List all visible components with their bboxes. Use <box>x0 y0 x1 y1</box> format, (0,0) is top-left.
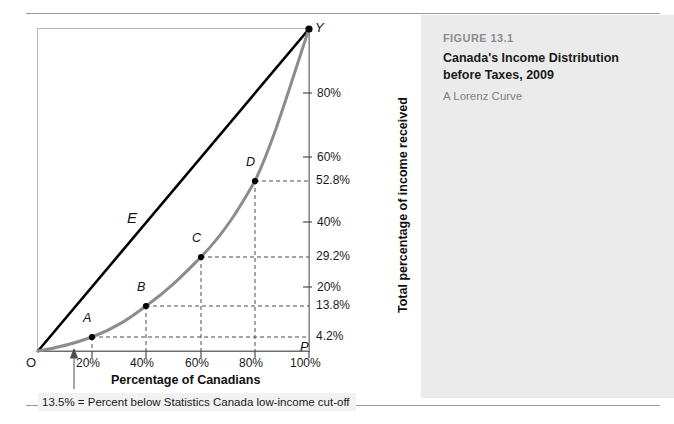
y-axis-title: Total percentage of income received <box>396 97 410 313</box>
y-value-52-8: 52.8% <box>316 173 350 187</box>
chart-vectors <box>0 15 421 405</box>
x-tick-20: 20% <box>76 356 100 370</box>
x-tick-100: 100% <box>290 356 321 370</box>
x-tick-60: 60% <box>185 356 209 370</box>
lorenz-curve-chart: A B C D Y P E O 20% 40% 60% 80% 100% 20%… <box>0 15 421 405</box>
point-label-y: Y <box>315 20 324 35</box>
y-value-13-8: 13.8% <box>316 298 350 312</box>
origin-label: O <box>26 355 36 370</box>
point-label-c: C <box>192 231 201 245</box>
figure-page: FIGURE 13.1 Canada's Income Distribution… <box>0 0 674 424</box>
point-label-a: A <box>83 311 91 325</box>
point-label-b: B <box>137 280 145 294</box>
figure-number: FIGURE 13.1 <box>443 32 654 44</box>
x-tick-40: 40% <box>130 356 154 370</box>
y-value-29-2: 29.2% <box>316 249 350 263</box>
figure-caption-panel: FIGURE 13.1 Canada's Income Distribution… <box>421 15 674 398</box>
y-value-4-2: 4.2% <box>316 329 343 343</box>
x-axis-title: Percentage of Canadians <box>111 373 260 387</box>
y-tick-40: 40% <box>317 215 341 229</box>
point-label-d: D <box>246 155 255 169</box>
y-tick-60: 60% <box>317 150 341 164</box>
x-tick-80: 80% <box>239 356 263 370</box>
area-label-e: E <box>127 209 137 226</box>
figure-subtitle: A Lorenz Curve <box>443 89 654 104</box>
y-tick-80: 80% <box>317 86 341 100</box>
figure-title: Canada's Income Distribution before Taxe… <box>443 50 654 84</box>
low-income-cutoff-note: 13.5% = Percent below Statistics Canada … <box>38 393 356 411</box>
y-tick-20: 20% <box>317 280 341 294</box>
top-divider-rule <box>26 13 660 14</box>
point-label-p: P <box>300 339 309 354</box>
